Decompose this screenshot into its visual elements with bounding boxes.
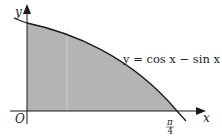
y-axis-label: y <box>14 5 22 19</box>
x-axis-label: x <box>203 111 210 125</box>
graph-canvas: y x O y = cos x − sin x π 4 <box>0 0 222 139</box>
tick-label-pi-over-4: π 4 <box>166 117 174 136</box>
shaded-region <box>27 23 177 111</box>
equation-label: y = cos x − sin x <box>122 52 220 66</box>
tick-denominator: 4 <box>168 126 173 136</box>
origin-label: O <box>15 112 25 126</box>
y-axis-arrow-icon <box>23 4 31 14</box>
